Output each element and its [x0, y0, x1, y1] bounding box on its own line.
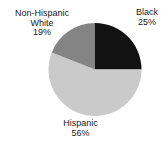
slice-label-hispanic: Hispanic 56% — [50, 119, 111, 138]
slice-label-black: Black 25% — [127, 8, 164, 27]
slice-label-pct: 25% — [127, 18, 164, 28]
slice-label-non-hispanic-white: Non-Hispanic White 19% — [4, 9, 80, 38]
pie-slice-black — [95, 23, 142, 70]
pie-chart-figure: Non-Hispanic White 19% Black 25% Hispani… — [0, 0, 164, 158]
slice-label-pct: 19% — [4, 28, 80, 38]
slice-label-pct: 56% — [50, 129, 111, 139]
